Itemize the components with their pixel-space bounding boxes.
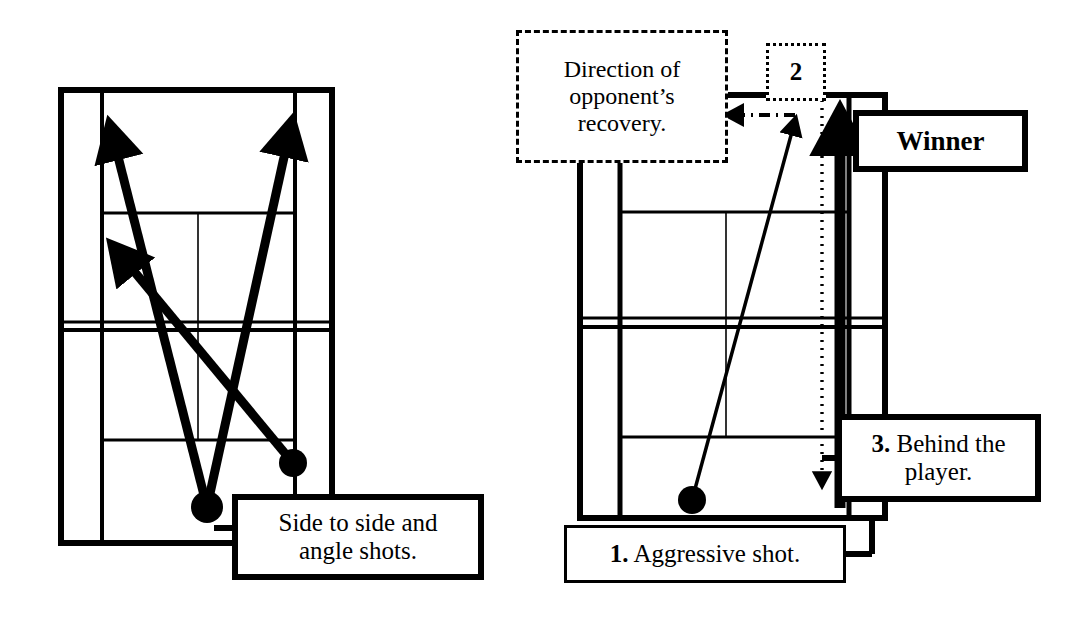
left-court-shots [112, 130, 307, 523]
ball-marker-right [279, 449, 307, 477]
callout-side-angle-line1: Side to side and [278, 509, 437, 536]
callout-aggressive-label: Aggressive shot. [633, 540, 800, 567]
callout-step-three-behind-the-player: 3. Behind the player. [836, 414, 1041, 502]
ball-marker-center [191, 491, 223, 523]
shot-path-1-aggressive [692, 128, 793, 500]
ball-marker-baseline [678, 486, 706, 514]
callout-step-one-aggressive-shot: 1. Aggressive shot. [564, 525, 846, 583]
callout-behind-number: 3. [871, 430, 890, 457]
shot-path-c [118, 252, 293, 463]
diagram-page: Side to side and angle shots. Direction … [0, 0, 1084, 626]
callout-direction-line2: opponent’s [569, 83, 674, 109]
callout-aggressive-text: 1. Aggressive shot. [610, 540, 800, 568]
callout-step-two-marker: 2 [766, 43, 826, 101]
callout-behind-text: 3. Behind the player. [871, 430, 1005, 486]
callout-side-angle-text: Side to side and angle shots. [278, 509, 437, 565]
callout-direction-line3: recovery. [578, 110, 666, 136]
shot-path-a [112, 133, 207, 507]
callout-winner-text: Winner [896, 126, 984, 156]
callout-direction-text: Direction of opponent’s recovery. [564, 56, 681, 137]
callout-side-to-side-angle-shots: Side to side and angle shots. [232, 494, 484, 580]
callout-step-two-text: 2 [790, 58, 803, 86]
callout-side-angle-line2: angle shots. [299, 537, 417, 564]
callout-direction-line1: Direction of [564, 56, 681, 82]
callout-winner: Winner [853, 110, 1028, 172]
callout-direction-of-opponents-recovery: Direction of opponent’s recovery. [516, 30, 728, 163]
callout-behind-line2: player. [905, 458, 972, 485]
callout-behind-line1: Behind the [896, 430, 1005, 457]
callout-aggressive-number: 1. [610, 540, 629, 567]
